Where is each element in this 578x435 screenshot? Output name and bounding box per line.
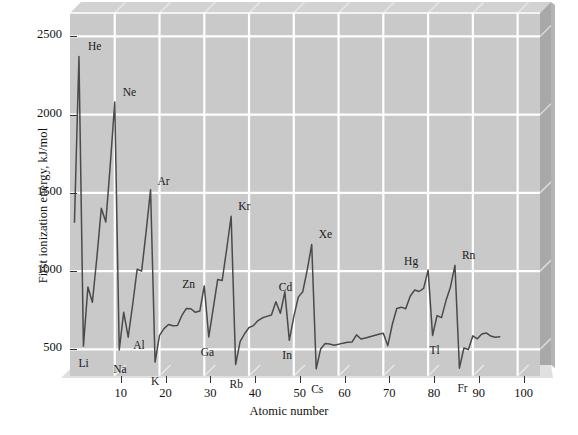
point-label-he: He	[88, 40, 101, 52]
point-label-li: Li	[78, 357, 88, 369]
point-label-xe: Xe	[319, 228, 332, 240]
point-label-na: Na	[113, 363, 126, 375]
x-tick-mark	[255, 376, 256, 383]
point-label-kr: Kr	[238, 200, 250, 212]
x-tick-label: 100	[504, 386, 544, 401]
point-label-in: In	[282, 349, 292, 361]
x-tick-label: 10	[101, 386, 141, 401]
x-tick-mark	[210, 376, 211, 383]
x-tick-mark	[524, 376, 525, 383]
point-label-cd: Cd	[279, 281, 292, 293]
x-tick-label: 60	[325, 386, 365, 401]
point-label-al: Al	[133, 339, 145, 351]
x-axis-ticks: 102030405060708090100	[0, 0, 578, 435]
point-label-cs: Cs	[311, 383, 323, 395]
point-label-fr: Fr	[457, 382, 467, 394]
x-tick-mark	[345, 376, 346, 383]
point-label-rn: Rn	[462, 249, 475, 261]
point-label-tl: Tl	[430, 344, 440, 356]
x-tick-mark	[300, 376, 301, 383]
x-tick-label: 20	[146, 386, 186, 401]
x-tick-mark	[389, 376, 390, 383]
x-tick-mark	[166, 376, 167, 383]
x-tick-label: 70	[369, 386, 409, 401]
point-label-ne: Ne	[123, 86, 136, 98]
point-label-ar: Ar	[158, 175, 170, 187]
point-label-zn: Zn	[182, 278, 195, 290]
point-label-k: K	[151, 375, 159, 387]
point-label-rb: Rb	[230, 378, 243, 390]
point-label-hg: Hg	[404, 255, 418, 267]
x-tick-mark	[479, 376, 480, 383]
x-tick-mark	[434, 376, 435, 383]
point-label-ga: Ga	[201, 346, 214, 358]
x-tick-mark	[121, 376, 122, 383]
x-tick-label: 30	[190, 386, 230, 401]
x-tick-label: 80	[414, 386, 454, 401]
